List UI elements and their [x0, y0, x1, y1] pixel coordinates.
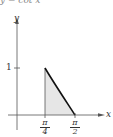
x-axis-label: x: [106, 110, 111, 119]
numerator: π: [72, 118, 77, 127]
x-tick-label-pi-4: π 4: [39, 119, 51, 136]
numerator: π: [42, 118, 47, 127]
y-axis-label: y: [14, 14, 19, 23]
x-axis-arrow-icon: [98, 113, 105, 117]
x-tick-label-pi-2: π 2: [69, 119, 81, 136]
denominator: 2: [72, 127, 77, 136]
y-tick-label: 1: [6, 63, 12, 72]
denominator: 4: [42, 127, 47, 136]
